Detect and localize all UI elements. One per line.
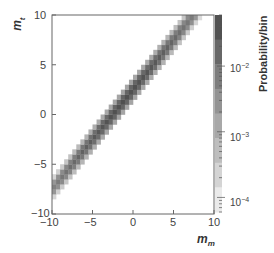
plot-frame [52,15,214,214]
colorbar-tick-label: 10−2 [230,62,249,74]
x-axis-title: mm [197,232,215,248]
x-tick-label: −10 [40,217,59,228]
y-axis-title: mt [10,18,26,31]
y-tick-label: 0 [40,109,46,120]
colorbar-tick-exp: −3 [241,131,249,138]
heatmap-cells [52,15,202,199]
x-axis-title-sub: m [208,239,215,248]
x-tick-label: −5 [84,217,97,228]
x-axis-title-main: m [197,232,208,246]
colorbar-tick-label: 10−3 [230,131,249,143]
y-tick-label: −5 [34,159,47,170]
colorbar-title: Probability/bin [257,16,269,92]
colorbar-tick-base: 10 [230,63,241,74]
colorbar-tick-label: 10−4 [230,196,249,208]
x-tick-label: 10 [208,217,220,228]
colorbar-tick-base: 10 [230,197,241,208]
colorbar-tick-exp: −2 [241,62,249,69]
colorbar-tick-exp: −4 [241,196,249,203]
y-axis-title-main: m [10,20,24,31]
y-axis-title-sub: t [18,18,27,21]
y-tick-label: 10 [34,10,46,21]
colorbar [215,15,225,213]
y-tick-label: 5 [40,60,46,71]
x-tick-label: 5 [170,217,176,228]
x-tick-label: 0 [130,217,136,228]
colorbar-tick-base: 10 [230,132,241,143]
probability-heatmap-chart: 10 5 0 −5 −10 −10 −5 0 5 10 mt mm 10−2 1… [0,0,274,253]
